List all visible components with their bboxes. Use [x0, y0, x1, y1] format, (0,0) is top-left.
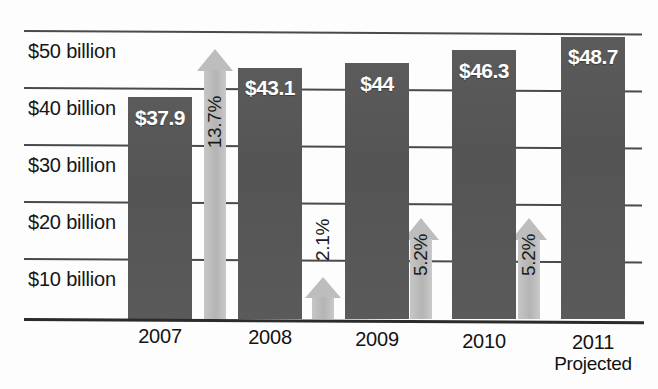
bar-value-label-2010: $46.3: [452, 59, 516, 83]
bar-2009: [345, 63, 409, 319]
x-axis-tick-2011-label: 2011: [572, 331, 614, 353]
x-axis-tick-2009: 2009: [329, 328, 425, 351]
gridline-40: [24, 87, 642, 92]
bar-2011: [561, 37, 625, 319]
plot-area: $50 billion $40 billion $30 billion $20 …: [0, 0, 658, 340]
y-axis-tick-10: $10 billion: [28, 268, 116, 291]
growth-arrow-5-2-b: 5.2%: [511, 218, 547, 319]
bar-chart: $50 billion $40 billion $30 billion $20 …: [0, 0, 658, 389]
x-axis-tick-2011: 2011 Projected: [545, 331, 641, 375]
growth-arrow-13-7: 13.7%: [197, 49, 233, 319]
gridline-30: [24, 144, 642, 149]
y-axis-tick-30: $30 billion: [28, 154, 116, 177]
x-axis-tick-2009-label: 2009: [355, 328, 399, 350]
bar-2008: [238, 68, 302, 319]
bar-value-label-2009: $44: [345, 72, 409, 96]
gridline-50: [24, 30, 642, 35]
bar-2007: [128, 97, 192, 319]
x-axis-tick-2008-label: 2008: [248, 326, 292, 348]
y-axis-tick-20: $20 billion: [28, 211, 116, 234]
x-axis-tick-2011-sublabel: Projected: [545, 353, 641, 375]
x-axis-tick-2008: 2008: [222, 326, 318, 349]
bar-value-label-2011: $48.7: [561, 45, 625, 69]
x-axis-tick-2010-label: 2010: [462, 330, 506, 352]
arrow-shaft: [312, 297, 334, 319]
gridline-20: [24, 201, 642, 206]
y-axis-tick-50: $50 billion: [28, 40, 116, 63]
growth-arrow-label-2-1: 2.1%: [312, 219, 334, 261]
arrow-head-icon: [197, 49, 233, 71]
x-axis-line: [24, 318, 644, 324]
x-axis-tick-2007-label: 2007: [138, 325, 182, 347]
growth-arrow-2-1: 2.1%: [305, 277, 341, 319]
bar-value-label-2007: $37.9: [128, 106, 192, 130]
x-axis-tick-2007: 2007: [112, 325, 208, 348]
x-axis-tick-2010: 2010: [436, 330, 532, 353]
growth-arrow-label-5-2-a: 5.2%: [410, 234, 432, 276]
growth-arrow-label-13-7: 13.7%: [204, 96, 226, 148]
bar-2010: [452, 50, 516, 319]
bar-value-label-2008: $43.1: [238, 76, 302, 100]
y-axis-tick-40: $40 billion: [28, 97, 116, 120]
growth-arrow-label-5-2-b: 5.2%: [518, 234, 540, 276]
arrow-head-icon: [305, 277, 341, 298]
